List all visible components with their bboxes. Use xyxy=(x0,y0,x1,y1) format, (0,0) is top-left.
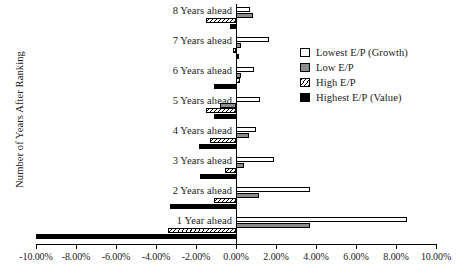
legend-item: Highest E/P (Value) xyxy=(300,90,408,104)
y-axis-category-label: 3 Years ahead xyxy=(173,155,232,166)
bar-high-ep xyxy=(206,18,236,23)
x-axis-tick xyxy=(156,244,157,249)
bar-highest-ep-value xyxy=(230,24,236,29)
bar-high-ep xyxy=(214,198,236,203)
bar-low-ep xyxy=(236,193,259,198)
x-axis-tick xyxy=(356,244,357,249)
bar-lowest-ep-growth xyxy=(236,67,254,72)
legend-item: Low E/P xyxy=(300,60,408,74)
x-axis-tick xyxy=(196,244,197,249)
bar-lowest-ep-growth xyxy=(236,217,407,222)
legend-swatch-lowest-ep-growth xyxy=(300,48,310,57)
y-axis-category-label: 4 Years ahead xyxy=(173,125,232,136)
bar-highest-ep-value xyxy=(236,54,239,59)
x-axis-tick xyxy=(36,244,37,249)
bar-low-ep xyxy=(236,163,244,168)
bar-lowest-ep-growth xyxy=(236,97,260,102)
legend-swatch-high-ep xyxy=(300,78,310,87)
y-axis-category-label: 2 Years ahead xyxy=(173,185,232,196)
x-axis-tick xyxy=(76,244,77,249)
bar-low-ep xyxy=(236,73,241,78)
bar-group: 3 Years ahead xyxy=(36,154,436,184)
bar-highest-ep-value xyxy=(214,114,236,119)
legend-item: Lowest E/P (Growth) xyxy=(300,45,408,59)
plot-area: 1 Year ahead2 Years ahead3 Years ahead4 … xyxy=(36,4,436,244)
bar-highest-ep-value xyxy=(214,84,236,89)
x-axis-tick-label: 10.00% xyxy=(406,251,458,262)
x-axis-tick xyxy=(236,244,237,249)
x-axis-tick xyxy=(436,244,437,249)
bar-group: 2 Years ahead xyxy=(36,184,436,214)
bar-lowest-ep-growth xyxy=(236,7,250,12)
bar-lowest-ep-growth xyxy=(236,37,269,42)
legend-label: Lowest E/P (Growth) xyxy=(316,47,408,58)
bar-lowest-ep-growth xyxy=(236,127,256,132)
bar-low-ep xyxy=(236,133,249,138)
x-axis-tick xyxy=(316,244,317,249)
legend: Lowest E/P (Growth)Low E/PHigh E/PHighes… xyxy=(300,45,408,105)
bar-lowest-ep-growth xyxy=(236,157,274,162)
legend-swatch-low-ep xyxy=(300,63,310,72)
bar-high-ep xyxy=(206,108,236,113)
bar-high-ep xyxy=(225,168,236,173)
legend-label: Highest E/P (Value) xyxy=(316,92,402,103)
bar-high-ep xyxy=(168,228,236,233)
bar-group: 8 Years ahead xyxy=(36,4,436,34)
bar-highest-ep-value xyxy=(170,204,236,209)
bar-lowest-ep-growth xyxy=(236,187,310,192)
bar-low-ep xyxy=(236,13,253,18)
bar-low-ep xyxy=(236,223,310,228)
bar-high-ep xyxy=(210,138,236,143)
x-axis-tick xyxy=(276,244,277,249)
bar-low-ep xyxy=(220,103,236,108)
y-axis-category-label: 1 Year ahead xyxy=(177,215,232,226)
legend-item: High E/P xyxy=(300,75,408,89)
y-axis-category-label: 6 Years ahead xyxy=(173,65,232,76)
bar-high-ep xyxy=(236,78,240,83)
bar-chart: Number of Years After Ranking 1 Year ahe… xyxy=(0,0,458,276)
y-axis-title: Number of Years After Ranking xyxy=(14,15,25,225)
legend-label: High E/P xyxy=(316,77,356,88)
bar-highest-ep-value xyxy=(200,174,236,179)
bar-low-ep xyxy=(236,43,241,48)
y-axis-category-label: 8 Years ahead xyxy=(173,5,232,16)
y-axis-category-label: 7 Years ahead xyxy=(173,35,232,46)
bar-group: 1 Year ahead xyxy=(36,214,436,244)
x-axis-tick xyxy=(396,244,397,249)
x-axis-tick xyxy=(116,244,117,249)
bar-highest-ep-value xyxy=(36,234,236,239)
bar-high-ep xyxy=(233,48,236,53)
legend-swatch-highest-ep-value xyxy=(300,93,310,102)
legend-label: Low E/P xyxy=(316,62,354,73)
bar-group: 4 Years ahead xyxy=(36,124,436,154)
bar-highest-ep-value xyxy=(199,144,236,149)
